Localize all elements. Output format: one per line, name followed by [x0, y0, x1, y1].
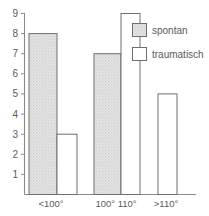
x-category-label-100-110: 100° 110° — [95, 198, 136, 209]
y-tick-label-9: 9 — [12, 8, 18, 19]
bar-traumatisch-gt110 — [158, 94, 177, 195]
y-tick-label-1: 1 — [12, 169, 18, 180]
chart-canvas: 9 8 7 6 5 4 3 2 1 <100° 100° 110° >110° … — [0, 0, 209, 216]
y-tick-label-8: 8 — [12, 28, 18, 39]
y-tick-label-6: 6 — [12, 68, 18, 79]
legend-swatch-traumatisch — [133, 48, 147, 61]
chart-legend: spontan traumatisch — [133, 24, 204, 61]
y-tick-label-7: 7 — [12, 48, 18, 59]
y-tick-label-2: 2 — [12, 149, 18, 160]
bar-chart-figure: 9 8 7 6 5 4 3 2 1 <100° 100° 110° >110° … — [0, 0, 209, 216]
y-tick-label-3: 3 — [12, 129, 18, 140]
legend-swatch-spontan — [133, 24, 147, 37]
bar-spontan-100-110 — [94, 54, 121, 195]
legend-label-traumatisch: traumatisch — [152, 49, 204, 60]
y-tick-label-5: 5 — [12, 88, 18, 99]
x-axis-category-labels: <100° 100° 110° >110° — [38, 198, 178, 209]
y-tick-label-4: 4 — [12, 109, 18, 120]
bar-traumatisch-100-110 — [121, 14, 140, 195]
bar-traumatisch-lt100 — [57, 134, 77, 194]
legend-label-spontan: spontan — [152, 25, 188, 36]
x-category-label-gt110: >110° — [154, 198, 179, 209]
y-axis-tick-labels: 9 8 7 6 5 4 3 2 1 — [12, 8, 18, 180]
x-category-label-lt100: <100° — [38, 198, 63, 209]
bar-spontan-lt100 — [29, 34, 57, 195]
